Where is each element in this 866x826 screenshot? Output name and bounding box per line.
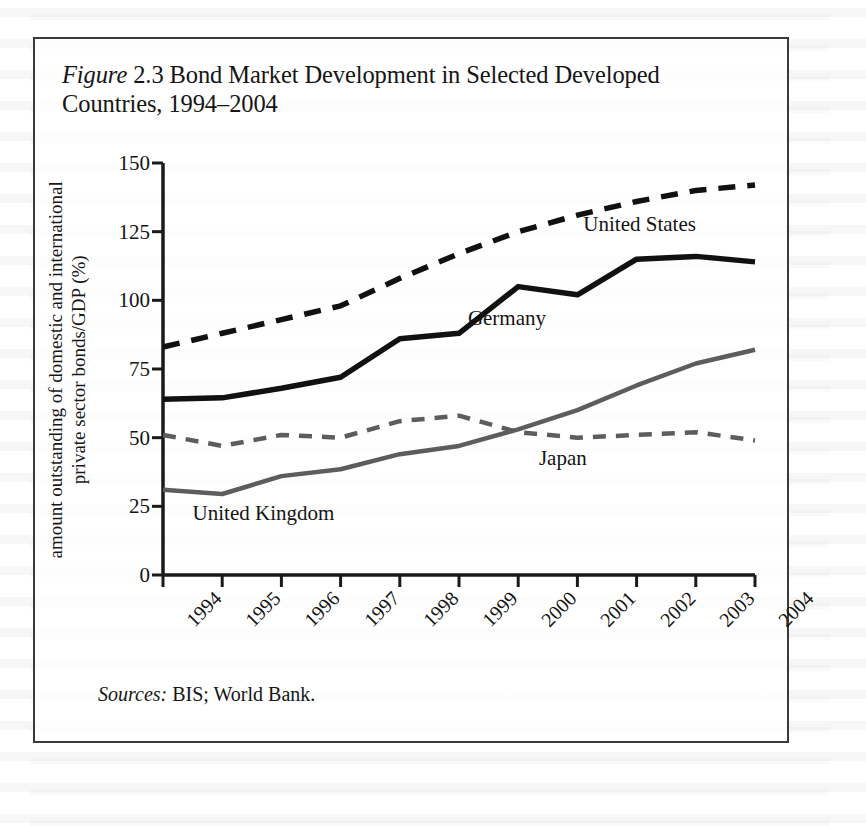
chart-area: amount outstanding of domestic and inter…: [35, 135, 791, 695]
y-tick-label: 25: [90, 494, 150, 519]
source-text: BIS; World Bank.: [172, 683, 315, 705]
figure-container: Figure 2.3 Bond Market Development in Se…: [33, 37, 789, 743]
source-label: Sources:: [98, 683, 167, 705]
y-tick-label: 0: [90, 563, 150, 588]
series-line: [163, 416, 755, 446]
x-tick-label: 2001: [596, 587, 641, 632]
y-tick-label: 150: [90, 151, 150, 176]
y-tick-label: 125: [90, 219, 150, 244]
y-tick-label: 75: [90, 357, 150, 382]
x-tick-label: 1994: [182, 587, 227, 632]
x-tick-label: 2004: [774, 587, 819, 632]
x-tick-label: 1995: [241, 587, 286, 632]
series-label-japan: Japan: [539, 446, 587, 471]
series-label-united-states: United States: [583, 212, 696, 237]
figure-title: Figure 2.3 Bond Market Development in Se…: [62, 61, 702, 118]
x-tick-label: 1998: [419, 587, 464, 632]
x-tick-label: 2002: [655, 587, 700, 632]
series-line: [163, 350, 755, 494]
x-tick-label: 1999: [478, 587, 523, 632]
x-tick-label: 1997: [359, 587, 404, 632]
series-label-germany: Germany: [468, 306, 546, 331]
y-tick-label: 50: [90, 425, 150, 450]
figure-title-number: 2.3: [133, 61, 163, 88]
figure-title-prefix: Figure: [62, 61, 127, 88]
x-tick-label: 2000: [537, 587, 582, 632]
y-tick-label: 100: [90, 288, 150, 313]
source-note: Sources: BIS; World Bank.: [98, 683, 315, 706]
series-line: [163, 185, 755, 347]
x-tick-label: 1996: [300, 587, 345, 632]
y-axis-title: amount outstanding of domestic and inter…: [45, 170, 91, 570]
series-label-united-kingdom: United Kingdom: [193, 501, 335, 526]
plot-region: 0255075100125150199419951996199719981999…: [163, 163, 755, 575]
x-tick-label: 2003: [715, 587, 760, 632]
